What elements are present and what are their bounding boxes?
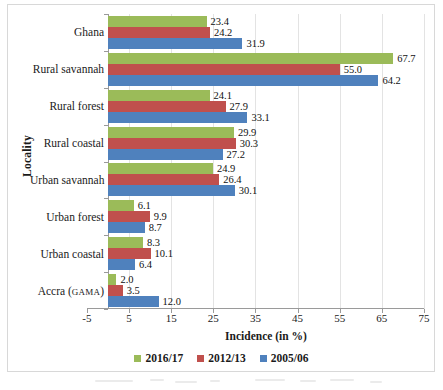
bar-value-label: 24.9: [217, 163, 235, 174]
scan-smudge: [300, 380, 316, 382]
scan-smudge: [95, 380, 133, 382]
y-tickmark: [104, 309, 108, 310]
bar: [108, 296, 159, 307]
bar-value-label: 6.1: [138, 200, 151, 211]
scan-smudge: [370, 381, 382, 383]
bar: [108, 27, 210, 38]
legend-item[interactable]: 2016/17: [134, 352, 183, 364]
y-tickmark: [104, 88, 108, 89]
bar: [108, 75, 378, 86]
bar: [108, 248, 151, 259]
x-tick-label: 5: [112, 312, 146, 324]
gridline: [424, 14, 425, 309]
bar: [108, 53, 393, 64]
bar: [108, 274, 116, 285]
bar: [108, 259, 135, 270]
x-tick-label: 75: [407, 312, 441, 324]
bar-value-label: 29.9: [238, 127, 256, 138]
y-tickmark: [104, 198, 108, 199]
bar: [108, 174, 219, 185]
legend-item[interactable]: 2012/13: [197, 352, 246, 364]
legend-item[interactable]: 2005/06: [260, 352, 309, 364]
bar-group: 23.424.231.9: [108, 16, 424, 49]
x-axis-title: Incidence (in %): [108, 330, 424, 342]
y-tickmark: [104, 14, 108, 15]
category-label: Accra (GAMA): [30, 285, 104, 298]
bar: [108, 90, 210, 101]
bar: [108, 185, 235, 196]
legend-label: 2005/06: [271, 352, 309, 364]
bar-value-label: 12.0: [163, 296, 181, 307]
bar-value-label: 27.2: [227, 149, 245, 160]
legend-label: 2012/13: [208, 352, 246, 364]
bar-value-label: 67.7: [397, 53, 415, 64]
x-tick-label: 45: [281, 312, 315, 324]
bar: [108, 138, 236, 149]
x-tick-label: 35: [238, 312, 272, 324]
bar-value-label: 23.4: [211, 16, 229, 27]
bar: [108, 222, 145, 233]
legend-label: 2016/17: [145, 352, 183, 364]
chart-root: Locality GhanaRural savannahRural forest…: [0, 0, 443, 390]
bar-value-label: 64.2: [382, 75, 400, 86]
category-label: Ghana: [30, 26, 104, 38]
category-label: Urban forest: [30, 211, 104, 223]
legend-swatch-icon: [134, 355, 141, 362]
x-tick-label: 65: [365, 312, 399, 324]
category-label: Urban savannah: [30, 174, 104, 186]
bar: [108, 200, 134, 211]
plot-area: 23.424.231.967.755.064.224.127.933.129.9…: [108, 14, 424, 309]
legend-swatch-icon: [197, 355, 204, 362]
bar: [108, 285, 123, 296]
bar-value-label: 8.7: [149, 222, 162, 233]
x-axis-tick-labels: -5515253545556575: [108, 312, 424, 328]
category-label: Rural forest: [30, 100, 104, 112]
scan-smudge: [150, 379, 164, 381]
bar: [108, 149, 223, 160]
bar-group: 24.926.430.1: [108, 163, 424, 196]
bar-value-label: 8.3: [147, 237, 160, 248]
category-label: Urban coastal: [30, 248, 104, 260]
category-label-list: GhanaRural savannahRural forestRural coa…: [30, 14, 104, 309]
y-tickmark: [104, 162, 108, 163]
y-tickmark: [104, 51, 108, 52]
bar-value-label: 30.1: [239, 185, 257, 196]
bar-value-label: 31.9: [246, 38, 264, 49]
bar-value-label: 6.4: [139, 259, 152, 270]
bar-value-label: 55.0: [344, 64, 362, 75]
bar: [108, 16, 207, 27]
bar: [108, 211, 150, 222]
scan-smudge: [330, 379, 354, 381]
x-tick-label: 55: [323, 312, 357, 324]
bar-group: 2.03.512.0: [108, 274, 424, 307]
category-label: Rural savannah: [30, 63, 104, 75]
bar-value-label: 10.1: [155, 248, 173, 259]
bar: [108, 237, 143, 248]
bar-group: 29.930.327.2: [108, 127, 424, 160]
y-tickmark: [104, 272, 108, 273]
scan-smudge: [175, 381, 197, 383]
bar: [108, 38, 242, 49]
x-tick-label: 15: [154, 312, 188, 324]
bar: [108, 101, 226, 112]
bar-value-label: 2.0: [120, 274, 133, 285]
bar-value-label: 30.3: [240, 138, 258, 149]
y-tickmark: [104, 125, 108, 126]
x-tick-label: 25: [196, 312, 230, 324]
bar-value-label: 24.1: [214, 90, 232, 101]
bar: [108, 112, 247, 123]
x-tick-label: -5: [70, 312, 104, 324]
bar: [108, 64, 340, 75]
bar-group: 67.755.064.2: [108, 53, 424, 86]
bar-group: 8.310.16.4: [108, 237, 424, 270]
bar: [108, 127, 234, 138]
legend-swatch-icon: [260, 355, 267, 362]
bar-value-label: 26.4: [223, 174, 241, 185]
y-tickmark: [104, 235, 108, 236]
bar: [108, 163, 213, 174]
bar-group: 6.19.98.7: [108, 200, 424, 233]
bar-group: 24.127.933.1: [108, 90, 424, 123]
bar-value-label: 3.5: [127, 285, 140, 296]
scan-artifact: [0, 376, 443, 390]
bar-value-label: 27.9: [230, 101, 248, 112]
